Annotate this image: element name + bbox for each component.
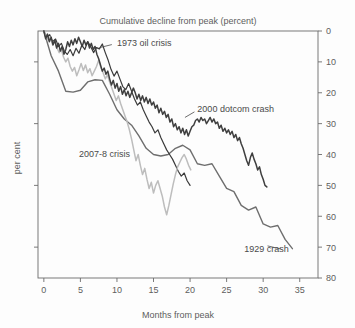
annotation-label-1: 1973 oil crisis: [117, 38, 172, 48]
x-tick-label: 20: [185, 285, 195, 295]
y-tick-label: 0: [326, 26, 331, 36]
y-tick-label: 60: [326, 212, 336, 222]
x-tick-label: 10: [112, 285, 122, 295]
y-tick-label: 30: [326, 119, 336, 129]
y-tick-label: 10: [326, 57, 336, 67]
y-tick-label: 20: [326, 88, 336, 98]
chart-container: Cumulative decline from peak (percent) p…: [0, 0, 355, 328]
chart-background: [0, 0, 355, 328]
y-tick-label: 40: [326, 150, 336, 160]
x-tick-label: 30: [258, 285, 268, 295]
y-tick-label: 70: [326, 243, 336, 253]
x-tick-label: 15: [149, 285, 159, 295]
x-tick-label: 25: [222, 285, 232, 295]
annotation-label-3: 2000 dotcom crash: [197, 104, 274, 114]
annotation-label-2: 2007-8 crisis: [79, 149, 131, 159]
chart-title: Cumulative decline from peak (percent): [99, 16, 256, 26]
cumulative-decline-chart: Cumulative decline from peak (percent) p…: [0, 0, 355, 328]
x-tick-label: 0: [41, 285, 46, 295]
annotation-label-0: 1929 crash: [244, 244, 289, 254]
y-axis-title: per cent: [12, 141, 22, 174]
x-axis-title: Months from peak: [142, 310, 215, 320]
x-tick-label: 5: [78, 285, 83, 295]
x-tick-label: 35: [295, 285, 305, 295]
y-tick-label: 80: [326, 273, 336, 283]
y-tick-label: 50: [326, 181, 336, 191]
